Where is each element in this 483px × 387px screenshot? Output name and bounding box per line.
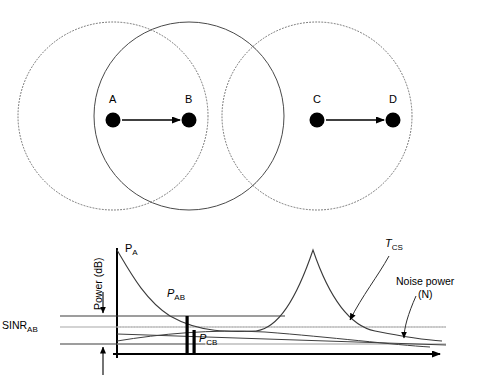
node-label-d: D (389, 94, 397, 105)
curve-label-p-cb-sub: CB (206, 338, 217, 347)
marker-label-sinr-ab-text: SINR (2, 319, 27, 331)
marker-label-t-cs: TCS (385, 238, 403, 252)
marker-label-p-ab-sub: AB (174, 293, 185, 302)
node-c (310, 113, 325, 128)
node-d (386, 113, 401, 128)
figure-root: A B C D Power (dB) PA PAB PCB TCS SINRAB… (0, 0, 483, 387)
node-label-b: B (185, 94, 192, 105)
curve-label-p-cb: PCB (199, 333, 217, 347)
curve-label-noise-power-sub: (N) (396, 288, 454, 301)
node-label-a: A (109, 94, 116, 105)
marker-label-sinr-ab-sub: AB (27, 325, 38, 334)
curve-label-p-a-sub: A (132, 248, 137, 257)
node-label-c: C (313, 94, 321, 105)
y-axis-label: Power (dB) (93, 257, 104, 310)
marker-label-p-ab: PAB (167, 288, 185, 302)
marker-label-sinr-ab: SINRAB (2, 320, 38, 334)
curve-label-noise-power-text: Noise power (396, 275, 454, 288)
figure-canvas (0, 0, 483, 387)
leader-noise-power (404, 296, 416, 338)
node-a (106, 113, 121, 128)
curve-label-noise-power: Noise power (N) (396, 275, 454, 301)
curve-label-p-a: PA (125, 243, 138, 257)
marker-label-t-cs-sub: CS (392, 243, 403, 252)
noise-power-line (117, 334, 446, 345)
bar-p-cb (193, 330, 196, 354)
marker-label-t-cs-text: T (385, 237, 392, 249)
node-b (182, 113, 197, 128)
bar-p-ab (186, 316, 189, 354)
leader-t-cs (350, 256, 389, 320)
